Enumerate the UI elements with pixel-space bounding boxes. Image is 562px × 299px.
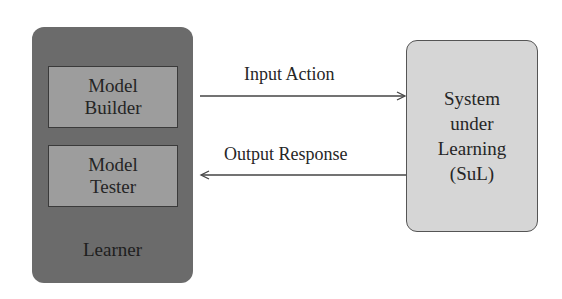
sul-label-line2: under [450,111,493,136]
sul-label-line4: (SuL) [450,161,494,186]
output-response-label: Output Response [224,144,348,165]
output-response-arrow [201,171,406,179]
sul-label-line3: Learning [438,136,507,161]
input-action-arrow [200,92,405,100]
system-under-learning-box: System under Learning (SuL) [406,40,538,232]
sul-label-line1: System [444,86,500,111]
input-action-label: Input Action [244,64,335,85]
